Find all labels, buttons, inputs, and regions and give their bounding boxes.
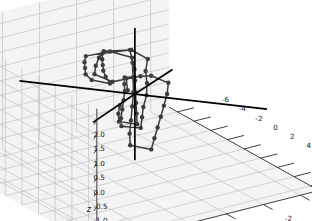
trajectory-marker	[92, 72, 96, 76]
y-tick-mark	[226, 214, 235, 219]
trajectory-marker	[108, 49, 112, 53]
trajectory-marker	[100, 51, 104, 55]
x-tick-mark	[294, 172, 311, 176]
x-tick-label: -4	[239, 104, 247, 113]
x-tick-mark	[311, 182, 312, 186]
trajectory-marker	[119, 124, 123, 128]
trajectory-marker	[108, 81, 112, 85]
trajectory-marker	[162, 103, 166, 107]
x-tick-mark	[227, 135, 244, 139]
x-tick-label: 2	[290, 132, 295, 141]
trajectory-marker	[117, 119, 121, 123]
figure-canvas: -6-4-20246810x-4-20246y-2.0-1.5-1.0-0.50…	[0, 0, 312, 221]
trajectory-marker	[122, 82, 126, 86]
trajectory-marker	[146, 57, 150, 61]
trajectory-marker	[83, 72, 87, 76]
trajectory-marker	[138, 74, 142, 78]
y-tick-mark	[301, 195, 310, 200]
x-tick-label: -6	[222, 95, 230, 104]
z-tick-label: -1.0	[93, 216, 107, 221]
trajectory-marker	[120, 107, 124, 111]
trajectory-marker	[149, 74, 153, 78]
y-tick-mark	[263, 205, 272, 210]
x-tick-label: -2	[255, 114, 262, 123]
x-tick-label: 0	[273, 123, 278, 132]
y-tick-label: -2	[285, 214, 292, 221]
z-tick-label: 1.0	[93, 159, 105, 168]
x-tick-label: 4	[307, 141, 312, 150]
trajectory-marker	[141, 105, 145, 109]
trajectory-marker	[128, 48, 132, 52]
x-tick-mark	[277, 163, 294, 167]
trajectory-marker	[90, 78, 94, 82]
x-tick-mark	[177, 108, 194, 112]
trajectory-marker	[143, 69, 147, 73]
trajectory-marker	[84, 54, 88, 58]
trajectory-marker	[159, 115, 163, 119]
trajectory-marker	[94, 63, 98, 67]
trajectory-marker	[101, 68, 105, 72]
x-tick-mark	[211, 126, 228, 130]
trajectory-marker	[82, 60, 86, 64]
trajectory-marker	[100, 57, 104, 61]
x-tick-mark	[244, 145, 261, 149]
trajectory-marker	[103, 74, 107, 78]
x-tick-mark	[261, 154, 278, 158]
trajectory-marker	[122, 75, 126, 79]
trajectory-marker	[130, 55, 134, 59]
trajectory-marker	[165, 92, 169, 96]
z-axis-label: z	[86, 205, 92, 214]
trajectory-marker	[83, 66, 87, 70]
trajectory-marker	[166, 81, 170, 85]
z-tick-label: 0.0	[93, 188, 105, 197]
z-tick-label: 1.5	[93, 144, 104, 153]
trajectory-marker	[149, 147, 153, 151]
trajectory-marker	[152, 136, 156, 140]
trajectory-marker	[155, 125, 159, 129]
trajectory-marker	[116, 112, 120, 116]
x-tick-mark	[194, 117, 211, 121]
trajectory-marker	[139, 126, 143, 130]
trajectory-marker	[129, 118, 133, 122]
axes3d-plot: -6-4-20246810x-4-20246y-2.0-1.5-1.0-0.50…	[0, 0, 312, 221]
trajectory-marker	[101, 63, 105, 67]
trajectory-marker	[127, 131, 131, 135]
z-tick-label: 0.5	[93, 173, 104, 182]
trajectory-marker	[140, 115, 144, 119]
trajectory-marker	[130, 104, 134, 108]
z-tick-label: -0.5	[93, 202, 107, 211]
z-tick-label: 2.0	[93, 130, 105, 139]
trajectory-marker	[128, 143, 132, 147]
